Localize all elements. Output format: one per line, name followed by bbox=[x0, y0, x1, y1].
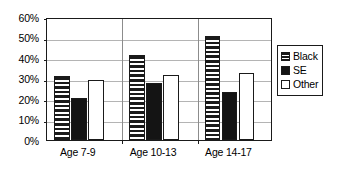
chart-legend: BlackSEOther bbox=[277, 45, 323, 96]
y-axis-tick-label: 20% bbox=[19, 95, 39, 106]
striped-swatch-icon bbox=[281, 52, 290, 61]
hollow-swatch-icon bbox=[281, 80, 290, 89]
y-axis-tick-mark bbox=[44, 19, 47, 20]
y-axis-tick-mark bbox=[44, 40, 47, 41]
bar-se-age-7-9 bbox=[71, 98, 87, 140]
legend-entry-se[interactable]: SE bbox=[281, 64, 318, 77]
plot-area bbox=[46, 18, 272, 141]
bar-other-age-7-9 bbox=[88, 80, 104, 140]
y-axis-tick-mark bbox=[44, 60, 47, 61]
bar-black-age-7-9 bbox=[54, 76, 70, 140]
bar-black-age-14-17 bbox=[205, 36, 221, 140]
y-axis-tick-label: 0% bbox=[24, 136, 39, 147]
legend-entry-other[interactable]: Other bbox=[281, 78, 318, 91]
solid-swatch-icon bbox=[281, 66, 290, 75]
y-axis-tick-mark bbox=[44, 101, 47, 102]
x-axis-tick-mark bbox=[198, 140, 199, 144]
bar-se-age-10-13 bbox=[146, 83, 162, 140]
category-divider bbox=[122, 19, 123, 140]
legend-label: Black bbox=[293, 51, 318, 62]
y-axis-tick-labels: 0%10%20%30%40%50%60% bbox=[0, 12, 42, 136]
legend-label: Other bbox=[293, 79, 318, 90]
bar-other-age-10-13 bbox=[163, 75, 179, 140]
y-axis-tick-label: 60% bbox=[19, 13, 39, 24]
x-axis-category-label: Age 14-17 bbox=[191, 146, 266, 158]
category-divider bbox=[198, 19, 199, 140]
y-axis-tick-mark bbox=[44, 81, 47, 82]
bar-se-age-14-17 bbox=[222, 92, 238, 140]
y-axis-tick-label: 40% bbox=[19, 54, 39, 65]
y-axis-tick-label: 30% bbox=[19, 74, 39, 85]
plot-inner bbox=[47, 19, 271, 140]
y-axis-tick-label: 10% bbox=[19, 115, 39, 126]
x-axis-category-labels: Age 7-9Age 10-13Age 14-17 bbox=[46, 146, 272, 162]
legend-label: SE bbox=[293, 65, 307, 76]
x-axis-category-label: Age 10-13 bbox=[115, 146, 190, 158]
legend-entry-black[interactable]: Black bbox=[281, 50, 318, 63]
y-axis-tick-mark bbox=[44, 122, 47, 123]
x-axis-tick-mark bbox=[122, 140, 123, 144]
horizontal-gridline bbox=[47, 81, 271, 82]
bar-chart-figure: 0%10%20%30%40%50%60% Age 7-9Age 10-13Age… bbox=[0, 0, 343, 169]
bar-other-age-14-17 bbox=[239, 73, 255, 140]
y-axis-tick-label: 50% bbox=[19, 33, 39, 44]
horizontal-gridline bbox=[47, 40, 271, 41]
x-axis-category-label: Age 7-9 bbox=[40, 146, 115, 158]
bar-black-age-10-13 bbox=[129, 55, 145, 140]
horizontal-gridline bbox=[47, 60, 271, 61]
